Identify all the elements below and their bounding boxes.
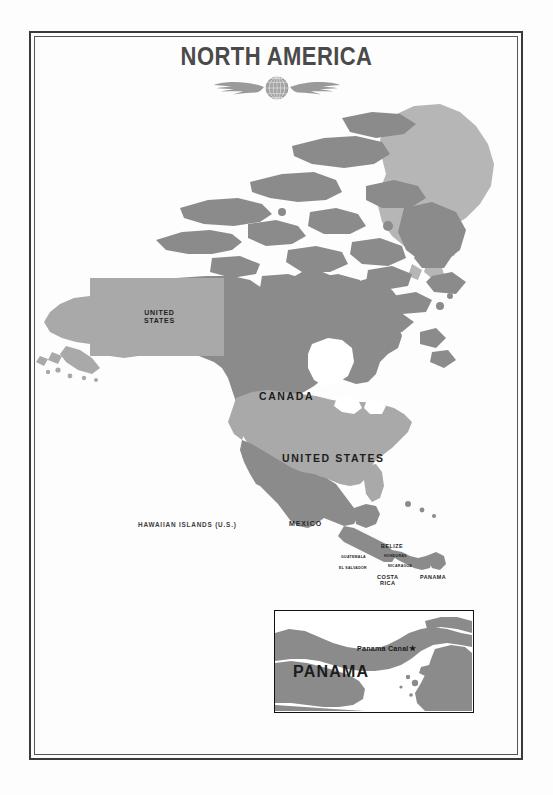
winged-globe-emblem [0, 73, 553, 103]
map-page: NORTH AMERICA [0, 0, 553, 795]
page-header: NORTH AMERICA [0, 44, 553, 103]
page-title: NORTH AMERICA [33, 44, 520, 69]
north-america-map: UNITEDSTATES CANADA UNITED STATES MEXICO… [36, 100, 516, 620]
panama-detail-inset: PANAMA Panama Canal★ [274, 610, 474, 713]
